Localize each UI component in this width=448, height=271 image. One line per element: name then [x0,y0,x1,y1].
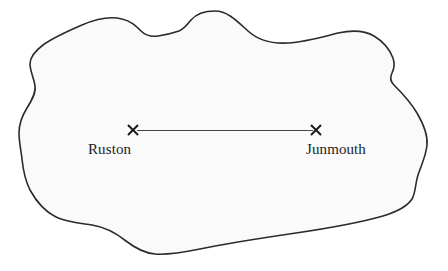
place-label-junmouth: Junmouth [306,141,366,158]
place-label-ruston: Ruston [88,141,131,158]
landmass-outline-path [19,11,427,254]
diagram-canvas: Ruston Junmouth [0,0,448,271]
map-svg [0,0,448,271]
